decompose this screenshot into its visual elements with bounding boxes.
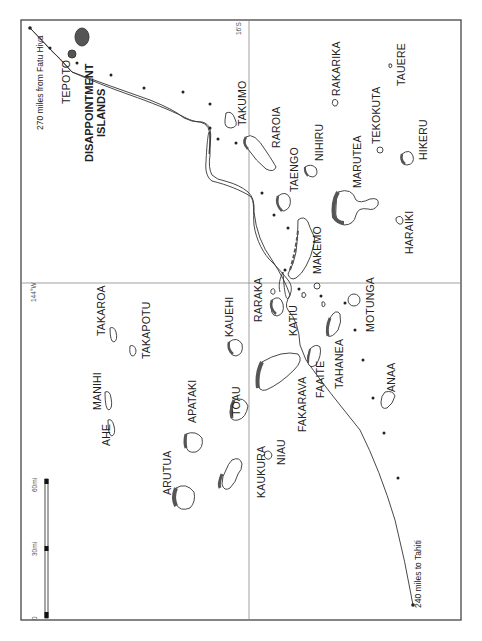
- label-niau: NIAU: [276, 439, 287, 465]
- island-small-a: [302, 292, 306, 297]
- label-toau: TOAU: [231, 386, 242, 416]
- island-haraiki-shape: [396, 216, 403, 224]
- island-fatu-hiva-group: [75, 28, 89, 46]
- label-raroia: RAROIA: [271, 107, 282, 148]
- route-start-label: 270 miles from Fatu Hiva: [36, 36, 45, 130]
- scale-tick-30: 30mi: [32, 542, 39, 556]
- label-katiu: KATIU: [288, 305, 299, 336]
- label-takaroa: TAKAROA: [96, 285, 107, 336]
- island-apataki-shape: [186, 433, 202, 453]
- disappointment-islands-label: DISAPPOINTMENT ISLANDS: [83, 64, 107, 162]
- label-faaite: FAAITE: [315, 361, 326, 398]
- label-fakarava: FAKARAVA: [297, 377, 308, 432]
- scale-tick-0: 0: [32, 616, 39, 620]
- island-tekokuta-shape: [377, 147, 383, 153]
- label-takumo: TAKUMO: [237, 81, 248, 126]
- island-tauere-shape: [389, 64, 392, 68]
- label-tepoto: TEPOTO: [61, 60, 72, 104]
- label-manihi: MANIHI: [92, 372, 103, 410]
- label-marutea: MARUTEA: [352, 135, 363, 188]
- label-raraka: RARAKA: [253, 278, 264, 322]
- meridian-label: 144°W: [31, 282, 38, 302]
- island-tepoto-shape: [68, 50, 76, 58]
- label-takapotu: TAKAPOTU: [141, 302, 152, 359]
- island-raraka-shape: [271, 289, 275, 294]
- label-haraiki: HARAIKI: [404, 211, 415, 254]
- island-rakarika-shape: [332, 99, 338, 106]
- label-kauehi: KAUEHI: [224, 297, 235, 337]
- label-rakarika: RAKARIKA: [331, 41, 342, 96]
- group-label-line1: DISAPPOINTMENT: [83, 64, 95, 162]
- label-motunga: MOTUNGA: [365, 277, 376, 332]
- island-takapotu-shape: [130, 346, 136, 357]
- label-tekokuta: TEKOKUTA: [371, 87, 382, 144]
- label-ahe: AHE: [101, 424, 112, 446]
- island-small-b: [322, 302, 325, 307]
- label-kaukura: KAUKURA: [256, 446, 267, 498]
- label-tahanea: TAHANEA: [334, 339, 345, 389]
- label-taengo: TAENGO: [289, 147, 300, 192]
- island-arutua-shape: [175, 486, 195, 510]
- scale-tick-60: 60mi: [32, 478, 39, 492]
- group-label-line2: ISLANDS: [95, 64, 107, 162]
- label-hikeru: HIKERU: [418, 119, 429, 160]
- parallel-label: 16'S: [236, 22, 243, 35]
- label-anaa: ANAA: [386, 363, 397, 392]
- island-makemo-islet: [314, 283, 320, 289]
- label-arutua: ARUTUA: [162, 451, 173, 495]
- label-nihiru: NIHIRU: [314, 124, 325, 161]
- scale-bar: [45, 479, 49, 618]
- label-makemo: MAKEMO: [312, 226, 323, 274]
- label-apataki: APATAKI: [187, 380, 198, 423]
- island-motunga-shape: [348, 294, 360, 306]
- label-tauere: TAUERE: [396, 43, 407, 86]
- route-end-label: 240 miles to Tahiti: [414, 540, 423, 608]
